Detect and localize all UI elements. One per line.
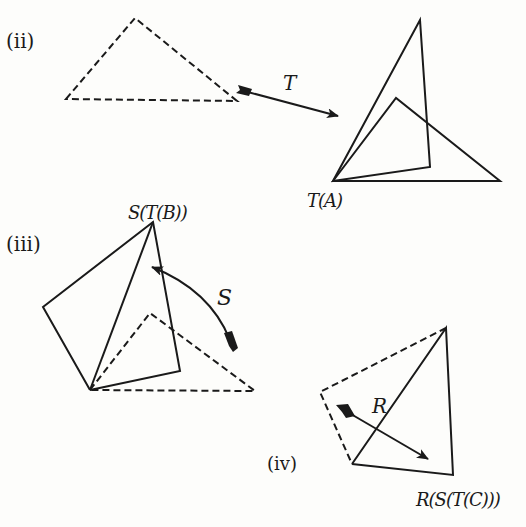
panel-ii-label: (ii) (6, 29, 34, 53)
tall-triangle (333, 20, 430, 181)
panel-iii-label: (iii) (6, 232, 41, 256)
original-triangle-dashed (66, 18, 237, 101)
transformation-diagram: (ii) T T(A) S(T(B)) (iii) S R (iv) R (0, 0, 526, 527)
rotated-quad-solid (43, 222, 180, 390)
panel-iv: R (iv) R(S(T(C))) (267, 328, 501, 510)
s-label: S (217, 285, 232, 310)
panel-ii: (ii) T T(A) (6, 18, 500, 211)
t-of-a-label: T(A) (307, 190, 343, 211)
r-of-s-of-t-of-c-label: R(S(T(C))) (415, 489, 501, 510)
arrow-fletching-icon (236, 85, 252, 96)
s-of-t-of-b-label: S(T(B)) (128, 202, 188, 223)
arrow-fletching-icon (336, 404, 355, 418)
r-label: R (371, 394, 387, 418)
panel-iv-label: (iv) (267, 453, 297, 474)
t-label: T (283, 71, 298, 95)
arrow-fletching-icon (224, 331, 238, 352)
panel-iii: S(T(B)) (iii) S (6, 202, 255, 391)
